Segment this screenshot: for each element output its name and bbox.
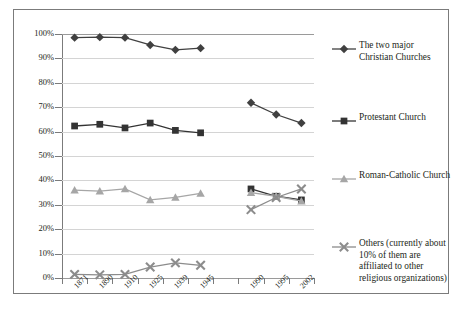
legend-label-line: Christian Churches	[359, 52, 431, 64]
y-tick-label: 20%	[14, 224, 54, 233]
legend-item-2[interactable]: Roman-Catholic Church	[331, 170, 450, 183]
legend-label-3: Others (currently about10% of them areaf…	[357, 238, 447, 284]
y-tick	[55, 83, 62, 84]
legend-marker-cross-icon	[331, 239, 357, 251]
legend-label-1: Protestant Church	[357, 112, 426, 124]
y-tick-label: 80%	[14, 78, 54, 87]
legend-label-2: Roman-Catholic Church	[357, 170, 450, 182]
x-tick	[238, 278, 239, 284]
legend-item-0[interactable]: The two majorChristian Churches	[331, 40, 431, 63]
legend-marker-triangle-icon	[331, 171, 357, 183]
legend-marker-diamond-icon	[331, 41, 357, 53]
legend-item-3[interactable]: Others (currently about10% of them areaf…	[331, 238, 447, 284]
legend-label-line: The two major	[359, 40, 431, 52]
y-tick-label: 90%	[14, 53, 54, 62]
y-tick	[55, 156, 62, 157]
y-tick	[55, 58, 62, 59]
series-canvas	[62, 34, 314, 278]
legend-label-line: religious organizations)	[359, 273, 447, 285]
legend-label-line: Roman-Catholic Church	[359, 170, 450, 182]
y-tick	[55, 229, 62, 230]
y-tick	[55, 107, 62, 108]
legend-marker-square-icon	[331, 113, 357, 125]
y-tick-label: 10%	[14, 249, 54, 258]
y-tick-label: 60%	[14, 127, 54, 136]
y-tick-label: 40%	[14, 175, 54, 184]
legend-item-1[interactable]: Protestant Church	[331, 112, 426, 125]
legend-label-line: Protestant Church	[359, 112, 426, 124]
chart-frame: 0%10%20%30%40%50%60%70%80%90%100% 187118…	[13, 9, 449, 294]
legend-label-line: 10% of them are	[359, 250, 447, 262]
series-0	[70, 33, 305, 127]
plot-area	[62, 34, 314, 278]
series-3	[70, 185, 305, 279]
y-tick-label: 70%	[14, 102, 54, 111]
y-axis-labels: 0%10%20%30%40%50%60%70%80%90%100%	[14, 10, 54, 295]
x-tick	[62, 278, 63, 284]
legend-label-line: Others (currently about	[359, 238, 447, 250]
y-tick-label: 30%	[14, 200, 54, 209]
y-tick	[55, 132, 62, 133]
y-tick	[55, 34, 62, 35]
y-tick	[55, 180, 62, 181]
y-tick	[55, 278, 62, 279]
y-tick	[55, 205, 62, 206]
legend-label-line: affiliated to other	[359, 261, 447, 273]
y-tick-label: 0%	[14, 273, 54, 282]
legend-label-0: The two majorChristian Churches	[357, 40, 431, 63]
y-tick-label: 50%	[14, 151, 54, 160]
y-tick-label: 100%	[14, 29, 54, 38]
y-tick	[55, 254, 62, 255]
